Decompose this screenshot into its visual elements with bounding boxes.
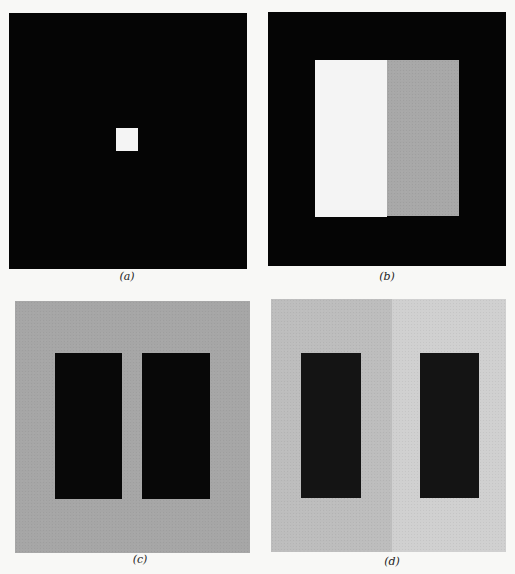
caption-c: (c) (133, 553, 148, 566)
white-square (116, 128, 138, 151)
panel-b (268, 12, 506, 266)
dark-bar-right (420, 353, 479, 498)
black-bar-right (142, 353, 210, 499)
panel-d (271, 299, 506, 552)
panel-a (9, 13, 247, 269)
black-bar-left (55, 353, 122, 499)
caption-b: (b) (379, 270, 395, 283)
caption-d: (d) (384, 555, 400, 568)
caption-a: (a) (119, 270, 134, 283)
panel-c (15, 301, 250, 553)
cut-off-caption-text (330, 568, 515, 574)
gray-half (387, 60, 459, 216)
dark-bar-left (301, 353, 361, 498)
white-half (315, 60, 387, 217)
